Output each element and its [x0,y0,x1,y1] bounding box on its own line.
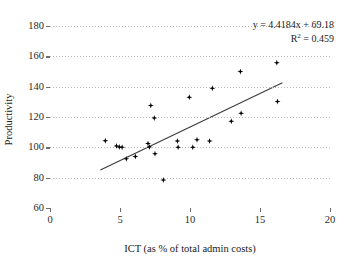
x-axis-tick-label: 5 [117,215,122,226]
x-axis-tick-label: 10 [185,215,196,226]
x-axis-tick-label: 0 [47,215,52,226]
x-axis-tick [260,208,261,212]
x-axis-tick [190,208,191,212]
gridline-y [50,87,330,88]
regression-equation: y = 4.4184x + 69.18 [253,18,334,32]
y-axis-tick [46,26,50,27]
y-axis-tick-label: 140 [28,81,44,92]
regression-annotation: y = 4.4184x + 69.18 R2 = 0.459 [253,18,334,45]
y-axis-tick-label: 80 [34,172,45,183]
r-squared-line: R2 = 0.459 [253,32,334,46]
gridline-y [50,56,330,57]
gridline-y [50,147,330,148]
y-axis-tick [46,117,50,118]
x-axis-title-text: ICT (as % of total admin costs) [124,243,256,254]
x-axis-tick [330,208,331,212]
y-axis-tick [46,178,50,179]
gridline-y [50,178,330,179]
plot-area: 608010012014016018005101520 [50,26,330,208]
x-axis-tick [50,208,51,212]
y-axis-tick-label: 160 [28,51,44,62]
y-axis-tick-label: 120 [28,112,44,123]
x-axis-tick-label: 15 [255,215,266,226]
x-axis-tick-label: 20 [325,215,336,226]
y-axis-tick-label: 180 [28,21,44,32]
y-axis-tick [46,56,50,57]
scatter-chart: Productivity 608010012014016018005101520… [0,0,346,273]
x-axis-title: ICT (as % of total admin costs) [50,243,330,254]
x-axis-tick [120,208,121,212]
y-axis-title: Productivity [2,0,16,273]
trendline-segment [100,83,282,170]
y-axis-tick [46,147,50,148]
y-axis-tick-label: 100 [28,142,44,153]
gridline-y [50,117,330,118]
y-axis-tick-label: 60 [34,203,45,214]
y-axis-tick [46,87,50,88]
r-squared-value: = 0.459 [301,33,334,44]
y-axis-title-text: Productivity [4,94,15,146]
